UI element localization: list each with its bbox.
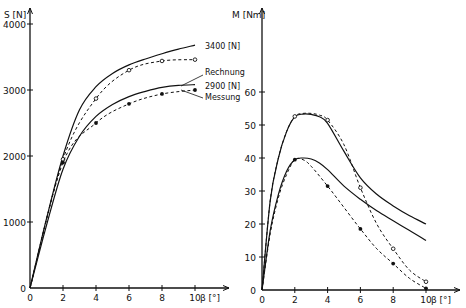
x-axis-label: β [°] xyxy=(200,293,220,303)
filled-circle-marker-icon xyxy=(424,286,428,290)
filled-circle-marker-icon xyxy=(359,227,363,231)
chart-canvas: 010002000300040000246810S [N]β [°]3400 [… xyxy=(0,0,466,308)
x-tick-label: 8 xyxy=(390,295,396,305)
x-tick-label: 2 xyxy=(292,295,298,305)
open-circle-marker-icon xyxy=(424,280,428,284)
measured-curve xyxy=(262,158,426,290)
force-chart: 010002000300040000246810S [N]β [°]3400 [… xyxy=(3,8,245,303)
measured-curve xyxy=(30,60,195,288)
y-tick-label: 20 xyxy=(245,220,257,230)
x-tick-label: 6 xyxy=(358,295,364,305)
y-tick-label: 10 xyxy=(245,253,257,263)
y-tick-label: 40 xyxy=(245,154,257,164)
moment-chart: 01020304050600246810M [Nm]β [°] xyxy=(232,8,460,305)
y-tick-label: 3000 xyxy=(3,86,26,96)
filled-circle-marker-icon xyxy=(160,92,164,96)
y-axis-label: S [N] xyxy=(4,10,26,20)
filled-circle-marker-icon xyxy=(61,161,65,165)
open-circle-marker-icon xyxy=(193,58,197,62)
x-tick-label: 6 xyxy=(126,293,132,303)
annotation-3400: 3400 [N] xyxy=(205,42,240,51)
open-circle-marker-icon xyxy=(359,186,363,190)
annotation-rechnung: Rechnung xyxy=(205,68,245,77)
filled-circle-marker-icon xyxy=(127,102,131,106)
filled-circle-marker-icon xyxy=(326,184,330,188)
filled-circle-marker-icon xyxy=(391,262,395,266)
y-tick-label: 4000 xyxy=(3,20,26,30)
figure: 010002000300040000246810S [N]β [°]3400 [… xyxy=(0,0,466,308)
filled-circle-marker-icon xyxy=(293,158,297,162)
leader-line xyxy=(182,92,205,102)
x-axis-label: β [°] xyxy=(431,295,451,305)
messung-leader-line xyxy=(181,90,203,98)
y-tick-label: 60 xyxy=(245,88,257,98)
open-circle-marker-icon xyxy=(94,97,98,101)
filled-circle-marker-icon xyxy=(193,88,197,92)
open-circle-marker-icon xyxy=(127,68,131,72)
y-tick-label: 0 xyxy=(20,284,26,294)
open-circle-marker-icon xyxy=(160,59,164,63)
y-tick-label: 30 xyxy=(245,187,257,197)
x-tick-label: 0 xyxy=(259,295,265,305)
y-tick-label: 2000 xyxy=(3,152,26,162)
x-tick-label: 2 xyxy=(60,293,66,303)
open-circle-marker-icon xyxy=(326,118,330,122)
calculated-curve xyxy=(262,158,426,290)
measured-curve xyxy=(262,113,426,290)
open-circle-marker-icon xyxy=(293,115,297,119)
filled-circle-marker-icon xyxy=(94,121,98,125)
calculated-curve xyxy=(262,114,426,290)
y-tick-label: 1000 xyxy=(3,218,26,228)
x-tick-label: 0 xyxy=(27,293,33,303)
open-circle-marker-icon xyxy=(391,247,395,251)
annotation-2900: 2900 [N] xyxy=(205,82,240,91)
y-axis-label: M [Nm] xyxy=(232,10,265,20)
measured-curve xyxy=(30,90,195,288)
x-tick-label: 4 xyxy=(93,293,99,303)
x-tick-label: 4 xyxy=(325,295,331,305)
x-tick-label: 8 xyxy=(159,293,165,303)
y-tick-label: 50 xyxy=(245,121,257,131)
y-tick-label: 0 xyxy=(250,286,256,296)
annotation-messung: Messung xyxy=(205,93,240,102)
